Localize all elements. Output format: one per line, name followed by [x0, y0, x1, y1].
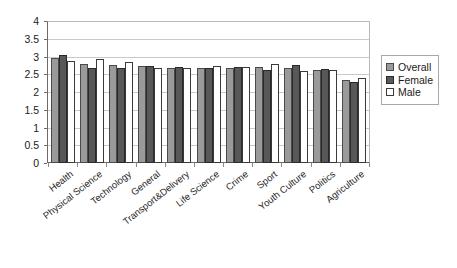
y-axis-tick-label: 2: [33, 87, 39, 98]
bar-female: [175, 67, 183, 163]
bar-female: [88, 68, 96, 163]
bar-male: [96, 59, 104, 163]
bar-overall: [51, 58, 59, 163]
y-axis-tick-label: 3.5: [24, 34, 39, 45]
bar-male: [271, 64, 279, 163]
bar-female: [234, 67, 242, 163]
bar-female: [350, 82, 358, 163]
bar-female: [292, 65, 300, 163]
bar-overall: [80, 64, 88, 163]
bar-female: [117, 68, 125, 163]
bar-male: [358, 78, 366, 163]
bar-overall: [226, 68, 234, 164]
bar-overall: [138, 66, 146, 163]
bar-group: [77, 22, 106, 163]
bar-overall: [167, 68, 175, 163]
bar-overall: [197, 68, 205, 163]
bar-group: [340, 22, 369, 163]
bar-group: [106, 22, 135, 163]
bar-chart: 00.511.522.533.54 HealthPhysical Science…: [0, 0, 457, 268]
bar-group: [252, 22, 281, 163]
y-axis-tick-label: 1: [33, 122, 39, 133]
y-axis-tick-label: 3: [33, 51, 39, 62]
bar-group: [48, 22, 77, 163]
bar-male: [183, 68, 191, 164]
legend-item: Female: [386, 75, 433, 86]
y-axis-tick-label: 2.5: [24, 69, 39, 80]
bar-group: [311, 22, 340, 163]
x-axis-labels: HealthPhysical ScienceTechnologyGeneralT…: [0, 163, 457, 268]
legend-swatch-female: [386, 76, 394, 84]
y-axis-tick-label: 0.5: [24, 140, 39, 151]
y-axis-tick-label: 4: [33, 16, 39, 27]
bar-group: [223, 22, 252, 163]
legend-swatch-overall: [386, 63, 394, 71]
bar-female: [59, 55, 67, 163]
bar-group: [165, 22, 194, 163]
bar-male: [329, 70, 337, 163]
bar-female: [205, 68, 213, 164]
bar-overall: [342, 80, 350, 163]
bar-female: [146, 66, 154, 163]
y-axis-tick-label: 1.5: [24, 105, 39, 116]
bar-group: [136, 22, 165, 163]
legend-item: Male: [386, 87, 433, 98]
bar-female: [263, 70, 271, 163]
bar-male: [300, 71, 308, 163]
bar-male: [242, 67, 250, 163]
bars-layer: [48, 22, 369, 163]
legend-label: Female: [398, 75, 433, 86]
x-axis-label: Crime: [224, 169, 250, 192]
legend-label: Male: [398, 87, 421, 98]
bar-overall: [255, 67, 263, 163]
bar-overall: [313, 70, 321, 163]
bar-male: [125, 62, 133, 163]
legend-swatch-male: [386, 88, 394, 96]
bar-male: [154, 68, 162, 164]
bar-overall: [284, 68, 292, 163]
bar-male: [67, 61, 75, 163]
bar-overall: [109, 65, 117, 163]
legend-label: Overall: [398, 62, 431, 73]
chart-legend: OverallFemaleMale: [381, 55, 439, 105]
bar-male: [213, 66, 221, 163]
bar-group: [194, 22, 223, 163]
bar-group: [282, 22, 311, 163]
legend-item: Overall: [386, 62, 433, 73]
bar-female: [321, 69, 329, 163]
